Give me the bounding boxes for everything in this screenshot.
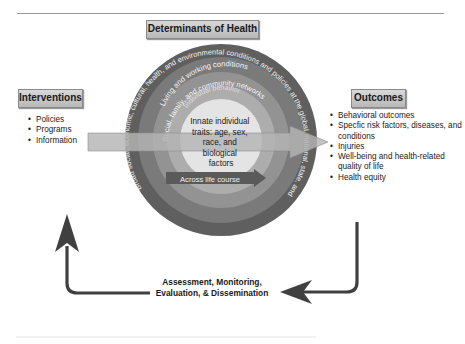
feedback-label: Assessment, Monitoring, Evaluation, & Di…	[152, 277, 272, 299]
list-item: Health equity	[330, 173, 465, 183]
list-item: Programs	[28, 125, 77, 135]
interventions-list: Policies Programs Information	[28, 115, 77, 146]
list-item: Injuries	[330, 142, 465, 152]
outcomes-title: Outcomes	[351, 89, 406, 108]
feedback-label-line1: Assessment, Monitoring,	[152, 277, 272, 288]
list-item: Well-being and health-related quality of…	[330, 152, 465, 173]
feedback-arrow-left-icon	[67, 246, 150, 293]
outcomes-list: Behavioral outcomes Specfic risk factors…	[330, 111, 465, 183]
interventions-title: Interventions	[18, 89, 83, 108]
list-item: Specfic risk factors, diseases, and cond…	[330, 121, 465, 142]
life-course-label: Across life course	[180, 175, 240, 184]
list-item: Policies	[28, 115, 77, 125]
determinants-title: Determinants of Health	[146, 20, 259, 39]
faint-caption-line	[16, 336, 316, 338]
list-item: Behavioral outcomes	[330, 111, 465, 121]
feedback-label-line2: Evaluation, & Dissemination	[152, 288, 272, 299]
list-item: Information	[28, 136, 77, 146]
